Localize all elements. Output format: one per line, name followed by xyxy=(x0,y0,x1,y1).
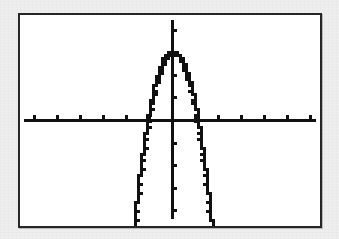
curve-pixel xyxy=(212,225,215,226)
curve-pixel xyxy=(206,174,209,177)
curve-pixel xyxy=(200,129,203,132)
curve-pixel xyxy=(197,108,200,111)
curve-pixel xyxy=(137,174,140,177)
curve-pixel xyxy=(206,183,209,186)
curve-pixel xyxy=(206,171,209,174)
curve-pixel xyxy=(155,84,158,87)
curve-pixel xyxy=(140,165,143,168)
curve-pixel xyxy=(134,204,137,207)
curve-pixel xyxy=(209,216,212,219)
curve-pixel xyxy=(143,153,146,156)
curve-pixel xyxy=(149,108,152,111)
curve-pixel xyxy=(164,54,167,57)
curve-pixel xyxy=(137,183,140,186)
curve-pixel xyxy=(143,150,146,153)
curve-pixel xyxy=(188,75,191,78)
curve-pixel xyxy=(137,219,140,222)
x-tick xyxy=(33,115,36,119)
curve-pixel xyxy=(164,63,167,66)
curve-pixel xyxy=(194,108,197,111)
curve-pixel xyxy=(152,99,155,102)
curve-pixel xyxy=(209,219,212,222)
curve-pixel xyxy=(188,84,191,87)
curve-pixel xyxy=(179,54,182,57)
curve-pixel xyxy=(158,81,161,84)
curve-pixel xyxy=(140,183,143,186)
curve-pixel xyxy=(197,111,200,114)
curve-pixel xyxy=(137,186,140,189)
calculator-screen[interactable] xyxy=(18,13,322,228)
curve-pixel xyxy=(203,168,206,171)
curve-pixel xyxy=(194,102,197,105)
curve-pixel xyxy=(182,66,185,69)
curve-pixel xyxy=(203,147,206,150)
curve-pixel xyxy=(140,159,143,162)
curve-pixel xyxy=(194,96,197,99)
curve-pixel xyxy=(155,81,158,84)
curve-pixel xyxy=(164,57,167,60)
curve-pixel xyxy=(179,60,182,63)
curve-pixel xyxy=(191,102,194,105)
y-tick xyxy=(173,29,177,32)
curve-pixel xyxy=(146,129,149,132)
curve-pixel xyxy=(212,222,215,225)
curve-pixel xyxy=(209,201,212,204)
x-axis-line xyxy=(24,119,316,122)
curve-pixel xyxy=(158,66,161,69)
curve-pixel xyxy=(155,75,158,78)
curve-pixel xyxy=(197,132,200,135)
curve-pixel xyxy=(197,120,200,123)
curve-pixel xyxy=(143,147,146,150)
curve-pixel xyxy=(188,72,191,75)
curve-pixel xyxy=(146,123,149,126)
x-tick xyxy=(102,115,105,119)
curve-pixel xyxy=(137,201,140,204)
curve-pixel xyxy=(197,114,200,117)
curve-pixel xyxy=(143,132,146,135)
curve-pixel xyxy=(185,72,188,75)
curve-pixel xyxy=(143,138,146,141)
curve-pixel xyxy=(176,51,179,54)
x-tick xyxy=(286,115,289,119)
curve-pixel xyxy=(191,99,194,102)
curve-pixel xyxy=(152,87,155,90)
curve-pixel xyxy=(134,210,137,213)
x-tick xyxy=(240,115,243,119)
x-tick xyxy=(309,115,312,119)
curve-pixel xyxy=(209,204,212,207)
curve-pixel xyxy=(203,153,206,156)
curve-pixel xyxy=(158,72,161,75)
curve-pixel xyxy=(152,90,155,93)
curve-pixel xyxy=(134,201,137,204)
curve-pixel xyxy=(200,153,203,156)
curve-pixel xyxy=(149,120,152,123)
curve-pixel xyxy=(170,51,173,54)
page-root xyxy=(0,0,339,239)
curve-pixel xyxy=(152,108,155,111)
curve-pixel xyxy=(209,198,212,201)
curve-pixel xyxy=(188,78,191,81)
curve-pixel xyxy=(212,219,215,222)
curve-pixel xyxy=(143,168,146,171)
curve-pixel xyxy=(161,57,164,60)
curve-pixel xyxy=(143,141,146,144)
curve-pixel xyxy=(200,126,203,129)
curve-pixel xyxy=(155,93,158,96)
curve-pixel xyxy=(152,93,155,96)
curve-pixel xyxy=(143,144,146,147)
curve-pixel xyxy=(170,54,173,57)
curve-pixel xyxy=(134,207,137,210)
curve-pixel xyxy=(146,126,149,129)
curve-pixel xyxy=(140,156,143,159)
y-tick xyxy=(173,164,177,167)
curve-pixel xyxy=(191,87,194,90)
curve-pixel xyxy=(200,147,203,150)
curve-pixel xyxy=(161,66,164,69)
y-tick xyxy=(173,187,177,190)
curve-pixel xyxy=(203,162,206,165)
curve-pixel xyxy=(200,135,203,138)
y-tick xyxy=(173,74,177,77)
curve-pixel xyxy=(140,171,143,174)
curve-pixel xyxy=(140,168,143,171)
curve-pixel xyxy=(167,54,170,57)
